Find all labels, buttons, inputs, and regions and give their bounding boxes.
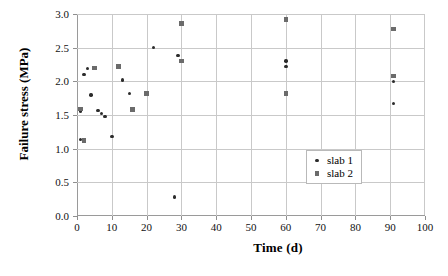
data-point-slab-2 (391, 74, 396, 79)
data-point-slab-1 (392, 102, 395, 105)
data-point-slab-1 (82, 73, 85, 76)
y-tick (73, 149, 77, 150)
data-point-slab-2 (179, 21, 184, 26)
y-tick (73, 48, 77, 49)
data-point-slab-1 (89, 93, 92, 96)
x-tick (147, 216, 148, 220)
data-point-slab-1 (392, 80, 395, 83)
data-point-slab-2 (144, 91, 149, 96)
y-tick-label: 2.0 (35, 76, 69, 87)
x-axis-title-text: Time (d) (253, 240, 302, 256)
data-point-slab-2 (284, 17, 289, 22)
y-tick-label: 0.5 (35, 177, 69, 188)
y-tick (73, 81, 77, 82)
data-point-slab-1 (121, 78, 124, 81)
x-tick (355, 216, 356, 220)
legend-dot-marker-icon (312, 159, 322, 162)
data-point-slab-2 (82, 138, 87, 143)
data-point-slab-1 (284, 65, 287, 68)
plot-area (77, 14, 425, 216)
x-axis-title: Time (d) (0, 240, 448, 256)
data-point-slab-1 (152, 46, 155, 49)
data-point-slab-2 (391, 27, 396, 32)
y-tick (73, 115, 77, 116)
gridline-horizontal (77, 182, 425, 183)
gridline-horizontal (77, 115, 425, 116)
x-tick (112, 216, 113, 220)
data-point-slab-2 (284, 91, 289, 96)
data-point-slab-1 (103, 115, 106, 118)
gridline-horizontal (77, 48, 425, 49)
x-tick (251, 216, 252, 220)
gridline-horizontal (77, 14, 425, 15)
x-tick (425, 216, 426, 220)
y-tick-label: 2.5 (35, 43, 69, 54)
x-tick (390, 216, 391, 220)
data-point-slab-2 (179, 59, 184, 64)
y-tick (73, 216, 77, 217)
data-point-slab-2 (116, 64, 121, 69)
legend[interactable]: slab 1 slab 2 (306, 150, 362, 184)
data-point-slab-2 (92, 66, 97, 71)
y-axis-title: Failure stress (MPa) (16, 4, 32, 204)
data-point-slab-2 (130, 107, 135, 112)
gridline-horizontal (77, 81, 425, 82)
x-tick (321, 216, 322, 220)
x-tick-label: 100 (405, 222, 445, 233)
legend-label-slab-2: slab 2 (327, 168, 353, 179)
y-tick-label: 1.0 (35, 144, 69, 155)
legend-item-slab-1[interactable]: slab 1 (312, 154, 353, 167)
y-tick (73, 14, 77, 15)
data-point-slab-1 (128, 92, 131, 95)
x-tick (181, 216, 182, 220)
legend-label-slab-1: slab 1 (327, 155, 353, 166)
data-point-slab-1 (96, 109, 99, 112)
data-point-slab-1 (284, 59, 287, 62)
x-tick (77, 216, 78, 220)
data-point-slab-2 (78, 107, 83, 112)
data-point-slab-1 (173, 195, 176, 198)
x-tick (286, 216, 287, 220)
gridline-horizontal (77, 149, 425, 150)
figure-scatter-failure-stress: 0102030405060708090100 0.00.51.01.52.02.… (0, 0, 448, 276)
legend-square-marker-icon (312, 171, 322, 175)
y-tick (73, 182, 77, 183)
data-point-slab-1 (176, 54, 179, 57)
legend-item-slab-2[interactable]: slab 2 (312, 167, 353, 180)
x-tick (216, 216, 217, 220)
data-point-slab-1 (110, 135, 113, 138)
data-point-slab-1 (86, 67, 89, 70)
y-tick-label: 3.0 (35, 9, 69, 20)
y-tick-label: 1.5 (35, 110, 69, 121)
y-tick-label: 0.0 (35, 211, 69, 222)
